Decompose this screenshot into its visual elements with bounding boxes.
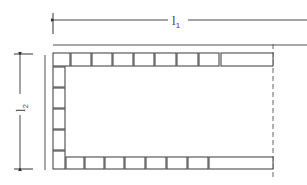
left-brick-column (53, 67, 65, 169)
brick-long (209, 157, 273, 169)
bottom-brick-row (66, 157, 273, 169)
brick (71, 53, 91, 66)
brick (53, 151, 65, 169)
dimension-l2: l2 (13, 54, 33, 169)
brick (105, 157, 124, 169)
brick (53, 53, 70, 66)
brick (167, 157, 187, 169)
brick (199, 53, 219, 66)
brick (85, 157, 104, 169)
brick (66, 157, 84, 169)
brick (188, 157, 208, 169)
brick (53, 67, 65, 87)
brick (134, 53, 154, 66)
brick (155, 53, 176, 66)
brick (53, 130, 65, 150)
brick (92, 53, 112, 66)
dimension-l1: l1 (53, 13, 307, 34)
brick (53, 88, 65, 108)
brick-border-diagram: l1 l2 (0, 0, 307, 185)
brick (125, 157, 145, 169)
dimension-l1-label: l1 (172, 13, 181, 30)
brick-long (221, 53, 273, 66)
brick (113, 53, 133, 66)
brick (177, 53, 198, 66)
top-brick-row (53, 53, 273, 66)
dimension-l2-label: l2 (13, 103, 30, 112)
brick (146, 157, 166, 169)
brick (53, 109, 65, 129)
